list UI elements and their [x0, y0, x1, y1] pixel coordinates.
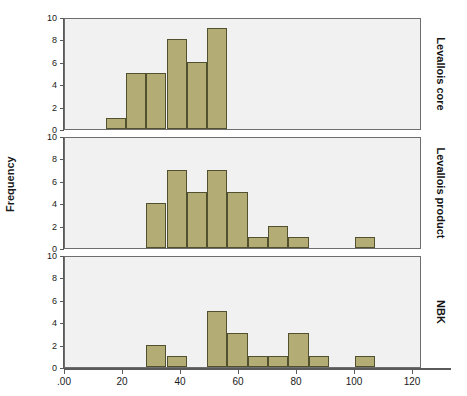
histogram-bar — [268, 226, 288, 248]
y-tick-label: 4 — [35, 199, 57, 209]
histogram-bar — [187, 62, 207, 129]
y-tick-label: 10 — [35, 251, 57, 261]
x-tick-label: 40 — [160, 376, 200, 387]
x-tick-label: 120 — [392, 376, 432, 387]
histogram-bar — [227, 333, 247, 367]
histogram-bar — [207, 170, 227, 248]
plot-area-1 — [65, 138, 420, 248]
panel-nbk — [64, 256, 421, 368]
panel-levallois-product — [64, 137, 421, 249]
histogram-bar — [288, 237, 308, 248]
x-tick-mark — [412, 369, 413, 374]
y-tick-label: 2 — [35, 222, 57, 232]
y-tick-label: 10 — [35, 13, 57, 23]
histogram-bar — [288, 333, 308, 367]
histogram-bar — [146, 345, 166, 367]
y-tick-mark — [60, 249, 64, 250]
y-tick-label: 2 — [35, 341, 57, 351]
histogram-chart: Frequency 0246810 0246810 0246810 Levall… — [0, 0, 467, 396]
histogram-bar — [355, 237, 375, 248]
x-tick-mark — [64, 369, 65, 374]
y-tick-label: 2 — [35, 103, 57, 113]
panel-label-levallois-core: Levallois core — [424, 18, 458, 130]
x-tick-label: 80 — [276, 376, 316, 387]
histogram-bar — [248, 237, 268, 248]
y-axis-panel-0: 0246810 — [34, 18, 64, 130]
x-tick-mark — [180, 369, 181, 374]
histogram-bar — [146, 203, 166, 248]
histogram-bar — [309, 356, 329, 367]
histogram-bar — [167, 356, 187, 367]
histogram-bar — [167, 39, 187, 129]
y-tick-label: 10 — [35, 132, 57, 142]
x-tick-label: 60 — [218, 376, 258, 387]
y-tick-label: 6 — [35, 177, 57, 187]
y-tick-label: 4 — [35, 80, 57, 90]
histogram-bar — [227, 192, 247, 248]
x-tick-label: 100 — [334, 376, 374, 387]
y-tick-label: 8 — [35, 35, 57, 45]
x-tick-mark — [296, 369, 297, 374]
panel-label-levallois-product: Levallois product — [424, 137, 458, 249]
y-axis-panel-2: 0246810 — [34, 256, 64, 368]
x-tick-label: .00 — [44, 376, 84, 387]
plot-area-0 — [65, 19, 420, 129]
y-axis-title-label: Frequency — [4, 156, 16, 212]
y-tick-label: 4 — [35, 318, 57, 328]
histogram-bar — [187, 192, 207, 248]
y-tick-label: 6 — [35, 58, 57, 68]
y-tick-label: 6 — [35, 296, 57, 306]
x-axis: .0020406080100120 — [34, 368, 434, 396]
histogram-bar — [167, 170, 187, 248]
panel-levallois-core — [64, 18, 421, 130]
plot-area-2 — [65, 257, 420, 367]
histogram-bar — [126, 73, 146, 129]
histogram-bar — [106, 118, 126, 129]
x-tick-label: 20 — [102, 376, 142, 387]
y-tick-label: 8 — [35, 154, 57, 164]
panel-label-text: Levallois core — [435, 37, 447, 110]
panel-label-nbk: NBK — [424, 256, 458, 368]
histogram-bar — [355, 356, 375, 367]
histogram-bar — [268, 356, 288, 367]
histogram-bar — [207, 28, 227, 129]
x-tick-mark — [122, 369, 123, 374]
panel-label-text: NBK — [435, 300, 447, 324]
y-tick-label: 8 — [35, 273, 57, 283]
histogram-bar — [207, 311, 227, 367]
histogram-bar — [248, 356, 268, 367]
panel-label-text: Levallois product — [435, 147, 447, 238]
x-tick-mark — [354, 369, 355, 374]
y-tick-mark — [60, 130, 64, 131]
y-axis-panel-1: 0246810 — [34, 137, 64, 249]
histogram-bar — [146, 73, 166, 129]
x-tick-mark — [238, 369, 239, 374]
